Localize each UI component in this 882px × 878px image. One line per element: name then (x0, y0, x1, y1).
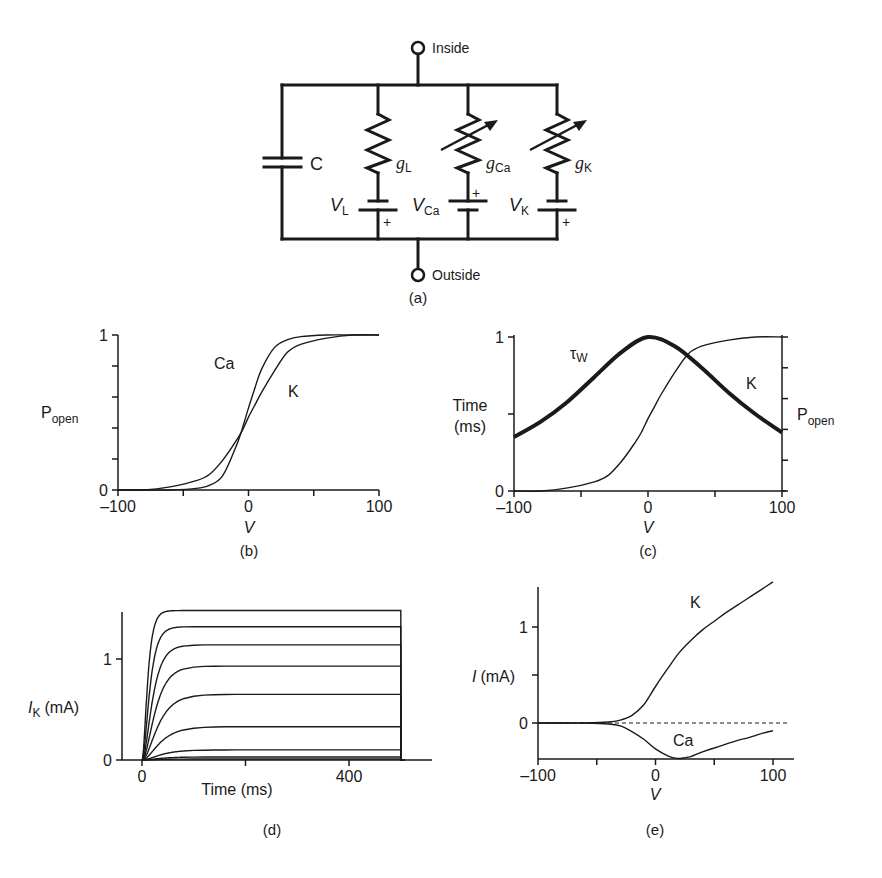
panel-b-k-curve (118, 335, 379, 490)
panel-c-xlabel: V (643, 519, 655, 536)
potassium-reversal-label: VK (509, 195, 529, 218)
svg-text:100: 100 (769, 499, 796, 516)
leak-reversal-label: VL (330, 195, 349, 218)
panel-e-k-annotation: K (690, 594, 701, 611)
panel-d-ylabel: IK(mA) (28, 699, 79, 720)
panel-d-current-traces (142, 611, 405, 761)
panel-c-k-annotation: K (746, 375, 757, 392)
panel-c-time-constant-chart: –100010001 τW K Time (ms) Popen V (c) (453, 329, 835, 559)
panel-a-circuit: Inside Outside C + gL V (264, 40, 592, 306)
capacitor-icon (264, 85, 301, 239)
panel-b-axes: –100010001 (99, 327, 392, 515)
panel-label-c: (c) (639, 542, 657, 559)
outside-terminal-icon (412, 269, 424, 281)
svg-text:1: 1 (495, 329, 504, 346)
potassium-conductance-label: gK (575, 153, 592, 175)
panel-e-k-curve (538, 582, 773, 723)
svg-text:0: 0 (495, 483, 504, 500)
calcium-battery-icon (450, 201, 486, 239)
svg-text:400: 400 (336, 768, 363, 785)
svg-text:0: 0 (244, 498, 253, 515)
inside-label: Inside (432, 40, 470, 56)
panel-e-ca-curve (538, 723, 773, 759)
svg-text:–100: –100 (100, 498, 136, 515)
calcium-conductance-label: gCa (486, 153, 511, 175)
panel-b-open-probability-chart: –100010001 Ca K Popen V (b) (41, 327, 392, 559)
svg-text:1: 1 (519, 619, 528, 636)
svg-text:100: 100 (366, 498, 393, 515)
inside-terminal-icon (412, 42, 424, 54)
calcium-variable-resistor-icon (441, 85, 498, 201)
svg-text:0: 0 (99, 482, 108, 499)
leak-plus-sign: + (383, 214, 391, 230)
svg-text:100: 100 (760, 767, 787, 784)
panel-c-tau-w-curve (514, 337, 782, 437)
panel-b-ylabel: Popen (41, 404, 78, 426)
panel-c-tau-annotation: τW (570, 345, 588, 365)
current-trace (142, 645, 405, 760)
capacitor-label: C (310, 154, 323, 174)
panel-e-ylabel: I(mA) (472, 668, 515, 685)
svg-text:0: 0 (644, 499, 653, 516)
svg-text:0: 0 (519, 715, 528, 732)
svg-text:0: 0 (651, 767, 660, 784)
svg-text:1: 1 (103, 651, 112, 668)
potassium-plus-sign: + (562, 214, 570, 230)
panel-c-ylabel-line2: (ms) (454, 418, 486, 435)
panel-label-d: (d) (263, 821, 281, 838)
figure-canvas: Inside Outside C + gL V (0, 0, 882, 878)
panel-d-potassium-current-chart: 040001 IK(mA) Time (ms) (d) (28, 611, 432, 839)
svg-text:0: 0 (103, 752, 112, 769)
calcium-plus-sign: + (472, 185, 480, 201)
panel-b-ca-curve (118, 335, 379, 490)
leak-conductance-label: gL (396, 153, 412, 175)
calcium-reversal-label: VCa (412, 195, 440, 218)
svg-text:1: 1 (99, 327, 108, 344)
panel-label-b: (b) (240, 542, 258, 559)
panel-d-xlabel: Time (ms) (201, 781, 272, 798)
current-trace (142, 611, 405, 761)
outside-label: Outside (432, 267, 480, 283)
panel-e-current-voltage-chart: –100010001 K Ca I(mA) V (e) (472, 582, 794, 838)
potassium-variable-resistor-icon (530, 85, 587, 201)
panel-b-k-annotation: K (288, 383, 299, 400)
panel-e-ca-annotation: Ca (673, 732, 694, 749)
current-trace (142, 666, 405, 760)
panel-b-ca-annotation: Ca (214, 355, 235, 372)
svg-text:–100: –100 (520, 767, 556, 784)
svg-text:0: 0 (138, 768, 147, 785)
panel-c-right-ylabel: Popen (797, 406, 834, 428)
panel-label-a: (a) (409, 289, 427, 306)
svg-text:–100: –100 (496, 499, 532, 516)
current-trace (142, 727, 405, 760)
panel-label-e: (e) (646, 821, 664, 838)
panel-e-xlabel: V (650, 786, 662, 803)
panel-b-xlabel: V (244, 519, 256, 536)
panel-c-ylabel-line1: Time (453, 397, 488, 414)
leak-resistor-icon (367, 85, 389, 201)
